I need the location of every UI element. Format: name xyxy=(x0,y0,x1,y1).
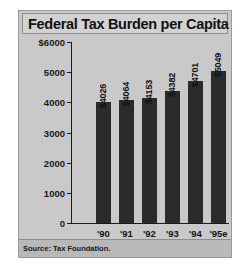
y-tick-mark xyxy=(67,42,71,43)
bar-value-label: $4064 xyxy=(121,82,131,106)
y-tick-label: $6000 xyxy=(39,37,65,48)
x-tick-label: '90 xyxy=(91,228,116,239)
bar-value-label: $4382 xyxy=(167,73,177,97)
x-tick-label: '95e xyxy=(206,228,231,239)
bar-value-label: $4153 xyxy=(144,80,154,104)
x-tick-label: '94 xyxy=(183,228,208,239)
y-tick-mark xyxy=(67,193,71,194)
x-tick-label: '91 xyxy=(114,228,139,239)
y-tick-mark xyxy=(67,72,71,73)
y-tick-mark xyxy=(67,133,71,134)
y-tick-mark xyxy=(67,102,71,103)
bar-value-label: $4701 xyxy=(190,63,200,87)
y-tick-label: 3000 xyxy=(44,127,65,138)
bar xyxy=(96,102,111,223)
bar xyxy=(165,91,180,223)
chart-panel: Federal Tax Burden per Capita 0100020003… xyxy=(18,10,232,258)
y-axis-line xyxy=(71,42,72,224)
bar xyxy=(211,71,226,223)
chart-title-bar: Federal Tax Burden per Capita xyxy=(22,13,228,34)
x-axis-line xyxy=(71,223,229,224)
bar xyxy=(119,100,134,223)
chart-footer: Source: Tax Foundation. xyxy=(19,239,231,257)
bar-value-label: $4026 xyxy=(98,84,108,108)
page-title: Federal Tax Burden per Capita xyxy=(23,16,229,32)
source-note: Source: Tax Foundation. xyxy=(19,244,110,253)
y-tick-mark xyxy=(67,223,71,224)
y-tick-mark xyxy=(67,163,71,164)
y-tick-label: 4000 xyxy=(44,97,65,108)
bar-value-label: $5049 xyxy=(213,53,223,77)
plot-area: 010002000300040005000$6000 $4026$4064$41… xyxy=(71,42,227,224)
bar xyxy=(188,81,203,223)
y-tick-label: 2000 xyxy=(44,157,65,168)
y-tick-label: 1000 xyxy=(44,187,65,198)
x-tick-label: '93 xyxy=(160,228,185,239)
y-tick-label: 0 xyxy=(60,218,65,229)
x-tick-label: '92 xyxy=(137,228,162,239)
bar xyxy=(142,98,157,223)
y-tick-label: 5000 xyxy=(44,67,65,78)
